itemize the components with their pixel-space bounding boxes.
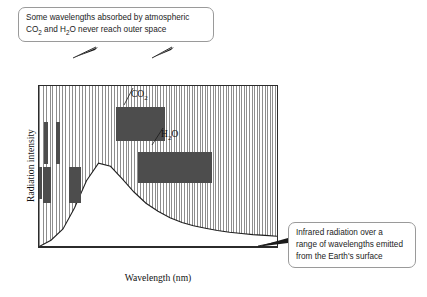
leader-co2: [124, 88, 133, 105]
leader-line-group: [73, 47, 288, 247]
leader-h2o: [152, 128, 163, 145]
leader-right-arrowhead: [152, 47, 174, 58]
leader-left-brace: [73, 47, 96, 58]
greenhouse-spectrum-figure: Some wavelengths absorbed by atmospheric…: [0, 0, 427, 297]
annotation-overlay: [0, 0, 427, 297]
leader-right-brace: [152, 47, 172, 58]
